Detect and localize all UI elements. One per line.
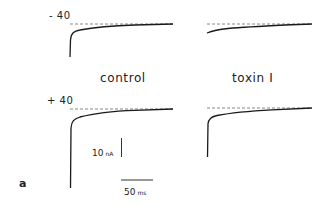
current-scale-value: 10	[92, 148, 103, 158]
condition-label-toxin: toxin I	[232, 72, 273, 84]
trace-top-toxin	[207, 24, 312, 33]
voltage-label-top: - 40	[49, 11, 71, 21]
time-scale-value: 50	[124, 187, 135, 197]
time-scale-label: 50ms	[124, 182, 146, 198]
current-scale-unit: nA	[105, 150, 113, 157]
current-trace	[207, 24, 312, 33]
time-scale-unit: ms	[137, 189, 146, 196]
current-scale-label: 10nA	[92, 143, 113, 159]
condition-label-control: control	[100, 72, 146, 84]
trace-top-control	[70, 24, 173, 57]
current-trace	[70, 24, 173, 57]
current-traces-figure	[0, 0, 329, 214]
panel-label: a	[19, 178, 26, 189]
current-trace	[208, 108, 313, 157]
trace-bottom-toxin	[207, 108, 312, 157]
voltage-label-bottom: + 40	[47, 96, 73, 106]
